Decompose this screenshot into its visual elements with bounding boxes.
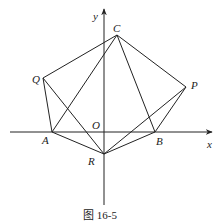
y-axis-label: y bbox=[92, 10, 98, 22]
segment-AC bbox=[52, 35, 117, 132]
segment-PR bbox=[104, 87, 186, 154]
point-label-R: R bbox=[87, 155, 95, 167]
point-label-C: C bbox=[113, 22, 121, 34]
geometry-figure: y x O C Q P A B R 图 16-5 bbox=[0, 0, 218, 224]
origin-label: O bbox=[92, 119, 100, 131]
figure-caption: 图 16-5 bbox=[83, 209, 117, 221]
point-label-P: P bbox=[190, 79, 198, 91]
segments bbox=[43, 35, 186, 154]
segment-AR bbox=[52, 132, 104, 154]
segment-QA bbox=[43, 78, 52, 132]
segment-PB bbox=[155, 87, 186, 132]
segment-BR bbox=[104, 132, 155, 154]
point-label-Q: Q bbox=[32, 73, 40, 85]
segment-QR bbox=[43, 78, 104, 154]
segment-QC bbox=[43, 35, 117, 78]
point-label-B: B bbox=[156, 135, 163, 147]
x-axis-label: x bbox=[206, 138, 212, 150]
point-label-A: A bbox=[41, 134, 49, 146]
